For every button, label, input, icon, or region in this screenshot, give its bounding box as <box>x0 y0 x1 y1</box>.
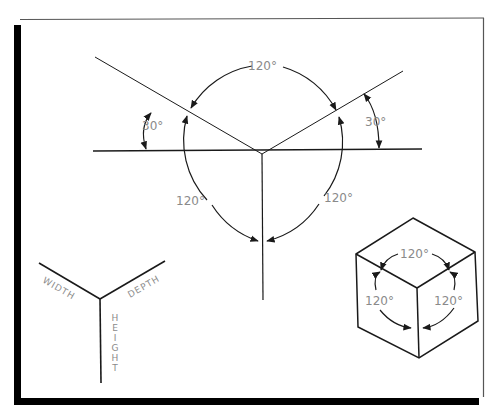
label-left-30: 30° <box>142 119 163 133</box>
cube-label-top: 120° <box>400 247 429 261</box>
cube-left-arc-upper <box>375 272 380 290</box>
label-left-120: 120° <box>176 194 205 208</box>
label-width: WIDTH <box>41 275 77 302</box>
isometric-cube <box>356 218 478 358</box>
frame <box>14 18 484 405</box>
label-right-30: 30° <box>365 115 386 129</box>
top-arc-right <box>283 67 336 110</box>
left-isometric-axis <box>95 57 262 154</box>
cube-right-arc-upper <box>450 272 455 290</box>
frame-shadow-bottom <box>15 398 479 405</box>
right-arc-lower <box>267 204 319 241</box>
top-arc-left <box>191 66 252 108</box>
label-height: HEIGHT <box>110 313 120 373</box>
cube-left-arc-lower <box>380 310 411 328</box>
left-arc-lower <box>212 205 258 241</box>
label-right-120: 120° <box>324 191 353 205</box>
cube-top-arc-left <box>381 254 398 270</box>
cube-label-right: 120° <box>434 294 463 308</box>
height-axis <box>100 299 101 383</box>
label-depth: DEPTH <box>126 273 162 299</box>
right-isometric-axis <box>262 71 403 154</box>
frame-top-border <box>20 18 484 20</box>
cube-top-arc-right <box>432 254 449 270</box>
isometric-diagram: 120° 120° 120° 30° 30° WIDTH DEPTH HEIGH… <box>0 0 495 419</box>
left-arc-upper <box>184 116 207 200</box>
right-arc-upper <box>324 117 343 196</box>
cube-angle-arcs <box>375 254 455 328</box>
cube-label-left: 120° <box>365 294 394 308</box>
frame-shadow-left <box>14 25 21 405</box>
cube-right-arc-lower <box>423 308 454 328</box>
horizontal-line <box>93 149 422 151</box>
cube-edge-vertical <box>417 288 419 358</box>
label-top-120: 120° <box>248 59 277 73</box>
vertical-axis <box>262 154 263 300</box>
